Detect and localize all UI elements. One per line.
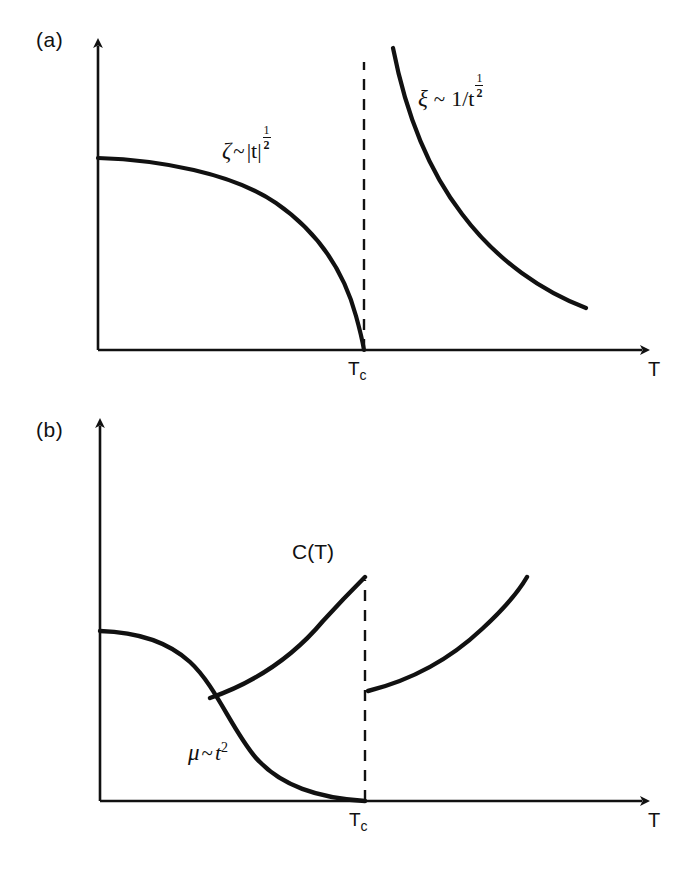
panel-a-x-axis-label: T bbox=[648, 358, 660, 381]
panel-a: (a) ζ~|t|12 bbox=[0, 0, 689, 420]
mu-symbol: μ bbox=[188, 740, 200, 765]
panel-b-plot bbox=[0, 400, 689, 870]
zeta-symbol: ζ bbox=[222, 138, 231, 163]
one-half-exponent: 12 bbox=[475, 72, 483, 99]
panel-a-plot bbox=[0, 0, 689, 420]
panel-a-order-parameter-curve bbox=[98, 158, 364, 350]
tilde-operator: ~ bbox=[231, 139, 246, 163]
tc-subscript: c bbox=[361, 818, 368, 834]
panel-b-x-axis-label: T bbox=[648, 809, 660, 832]
panel-b-order-parameter-curve bbox=[100, 631, 365, 801]
panel-b-annotation-order-parameter: μ~t2 bbox=[188, 740, 228, 766]
xi-symbol: ξ bbox=[418, 86, 428, 111]
tilde-operator: ~ bbox=[428, 87, 451, 111]
one-over-t-expression: 1/t bbox=[451, 86, 474, 111]
one-half-exponent: 12 bbox=[263, 124, 271, 151]
tc-subscript: c bbox=[360, 367, 367, 383]
tilde-operator: ~ bbox=[200, 741, 215, 765]
panel-a-annotation-order-parameter: ζ~|t|12 bbox=[222, 124, 271, 164]
figure-container: (a) ζ~|t|12 bbox=[0, 0, 689, 870]
tc-letter: T bbox=[349, 809, 361, 830]
panel-b-specific-heat-curve-below bbox=[210, 577, 365, 698]
tc-letter: T bbox=[348, 358, 360, 379]
abs-t-expression: |t| bbox=[247, 138, 262, 163]
panel-b: (b) C(T) bbox=[0, 400, 689, 870]
panel-a-annotation-correlation-length: ξ~1/t12 bbox=[418, 72, 483, 112]
squared-exponent: 2 bbox=[221, 740, 228, 755]
panel-b-tc-tick-label: Tc bbox=[349, 809, 368, 834]
specific-heat-label: C(T) bbox=[292, 540, 334, 563]
panel-b-specific-heat-curve-above bbox=[368, 577, 527, 691]
panel-a-tc-tick-label: Tc bbox=[348, 358, 367, 383]
panel-b-annotation-specific-heat: C(T) bbox=[292, 540, 334, 564]
